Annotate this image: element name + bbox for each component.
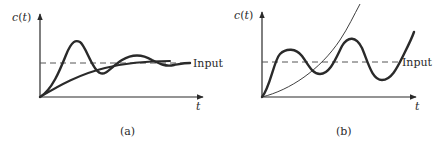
panel-b-input-label: Input bbox=[402, 56, 433, 69]
panel-a-caption: (a) bbox=[120, 125, 135, 138]
panel-a-x-axis-label: t bbox=[196, 100, 201, 113]
panel-a-input-label: Input bbox=[193, 57, 224, 70]
panel-b-growing-oscillation-curve bbox=[262, 32, 414, 97]
panel-b: c(t) t Input (b) bbox=[234, 4, 433, 138]
panel-b-y-axis-label: c(t) bbox=[234, 9, 253, 22]
panel-b-caption: (b) bbox=[336, 125, 352, 138]
panel-a-overdamped-curve bbox=[40, 61, 170, 97]
figure-canvas: c(t) t Input (a) c(t) t Input (b) bbox=[0, 0, 442, 145]
panel-a: c(t) t Input (a) bbox=[12, 11, 224, 138]
panel-b-x-axis-label: t bbox=[415, 100, 420, 113]
panel-a-y-axis-label: c(t) bbox=[12, 11, 31, 24]
panel-a-underdamped-curve bbox=[40, 41, 190, 97]
panel-b-exponential-curve bbox=[262, 4, 360, 97]
